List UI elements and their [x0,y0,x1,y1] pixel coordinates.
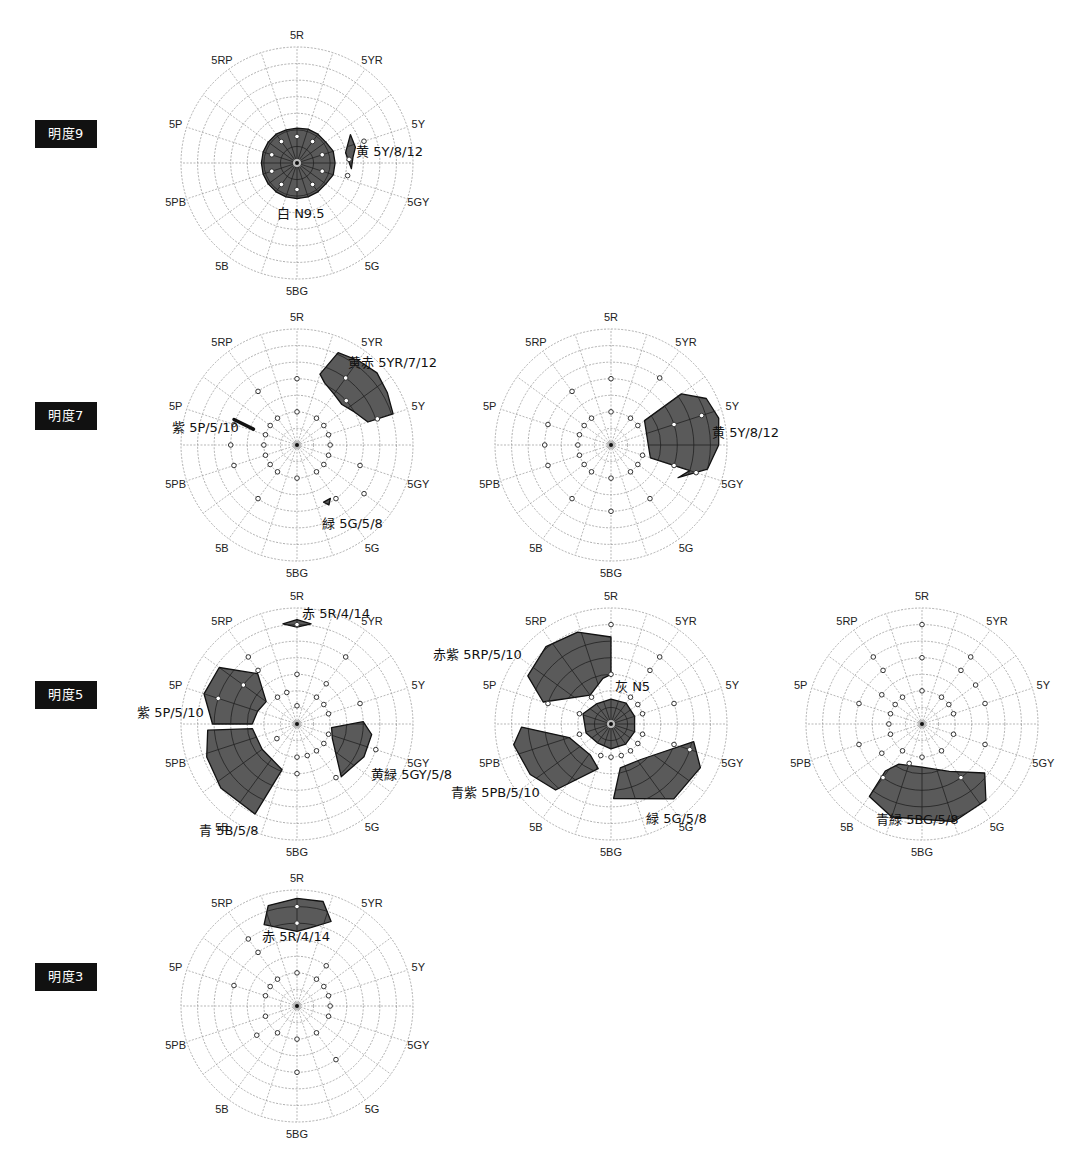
reference-point-marker [256,950,261,955]
hue-tick-label: 5B [840,821,853,833]
hue-tick-label: 5G [365,260,380,272]
hue-tick-label: 5P [169,118,182,130]
reference-point-marker [582,423,587,428]
hue-tick-label: 5Y [726,400,740,412]
hue-tick-label: 5R [290,29,304,41]
reference-point-marker [295,134,300,139]
hue-tick-label: 5G [990,821,1005,833]
reference-point-marker [570,496,575,501]
hue-spoke [297,970,407,1006]
sample-color-label: 赤紫 5RP/5/10 [433,647,522,662]
hue-tick-label: 5RP [211,336,232,348]
center-dot [295,1004,299,1008]
reference-point-marker [920,755,925,760]
reference-point-marker [694,470,699,475]
reference-point-marker [263,993,268,998]
hue-spoke [297,724,333,834]
hue-tick-label: 5RP [211,615,232,627]
reference-point-marker [628,416,633,421]
reference-point-marker [879,692,884,697]
center-dot [295,443,299,447]
reference-point-marker [295,1037,300,1042]
reference-point-marker [314,749,319,754]
reference-point-marker [324,963,329,968]
reference-point-marker [582,462,587,467]
polar-chart: 5R5YR5Y5GY5G5BG5B5PB5P5RP黄 5Y/8/12 [479,311,779,578]
reference-point-marker [881,668,886,673]
hue-tick-label: 5B [215,260,228,272]
reference-point-marker [920,655,925,660]
hue-tick-label: 5B [529,542,542,554]
hue-tick-label: 5YR [361,54,382,66]
hue-tick-label: 5B [215,1103,228,1115]
reference-point-marker [672,701,677,706]
sample-color-label: 紫 5P/5/10 [172,420,239,435]
hue-tick-label: 5PB [165,478,186,490]
sample-color-label: 灰 N5 [615,679,650,694]
reference-point-marker [636,702,641,707]
hue-spoke [203,445,297,513]
hue-tick-label: 5PB [165,757,186,769]
reference-point-marker [546,422,551,427]
hue-spoke [501,445,611,481]
reference-point-marker [326,732,331,737]
reference-point-marker [241,683,246,688]
reference-point-marker [609,410,614,415]
reference-point-marker [688,747,693,752]
reference-point-marker [598,753,603,758]
reference-point-marker [295,476,300,481]
hue-spoke [297,1006,365,1100]
reference-point-marker [256,496,261,501]
reference-point-marker [256,668,261,673]
hue-spoke [261,335,297,445]
hue-tick-label: 5P [794,679,807,691]
reference-point-marker [228,443,233,448]
hue-tick-label: 5P [169,679,182,691]
reference-point-marker [322,423,327,428]
reference-point-marker [576,443,581,448]
hue-tick-label: 5P [169,961,182,973]
hue-spoke [203,1006,297,1074]
hue-spoke [261,1006,297,1116]
reference-point-marker [879,751,884,756]
sample-color-label: 青緑 5BG/5/8 [876,812,958,827]
reference-point-marker [907,761,912,766]
color-range-region [645,394,719,478]
reference-point-marker [983,742,988,747]
hue-spoke [229,445,297,539]
reference-point-marker [344,398,349,403]
reference-point-marker [888,732,893,737]
reference-point-marker [284,690,289,695]
reference-point-marker [881,775,886,780]
center-dot [920,722,924,726]
hue-tick-label: 5G [365,1103,380,1115]
hue-spoke [297,688,407,724]
reference-point-marker [699,413,704,418]
reference-point-marker [939,695,944,700]
hue-spoke [543,445,611,539]
hue-spoke [297,630,365,724]
hue-tick-label: 5GY [1032,757,1055,769]
reference-point-marker [326,711,331,716]
hue-tick-label: 5R [604,311,618,323]
polar-chart: 5R5YR5Y5GY5G5BG5B5PB5P5RP赤 5R/4/14紫 5P/5… [137,590,452,857]
reference-point-marker [232,983,237,988]
hue-spoke [261,614,297,724]
sample-color-label: 黄緑 5GY/5/8 [371,767,452,782]
reference-point-marker [973,683,978,688]
hue-spoke [575,335,611,445]
reference-point-marker [672,742,677,747]
hue-spoke [611,335,647,445]
hue-tick-label: 5YR [361,897,382,909]
reference-point-marker [314,416,319,421]
reference-point-marker [589,416,594,421]
reference-point-marker [314,977,319,982]
hue-tick-label: 5RP [525,336,546,348]
hue-tick-label: 5BG [286,285,308,297]
color-range-region [204,668,266,725]
reference-point-marker [322,741,327,746]
reference-point-marker [887,722,892,727]
reference-point-marker [589,695,594,700]
polar-chart: 5R5YR5Y5GY5G5BG5B5PB5P5RP青緑 5BG/5/8 [790,590,1055,857]
hue-tick-label: 5RP [525,615,546,627]
